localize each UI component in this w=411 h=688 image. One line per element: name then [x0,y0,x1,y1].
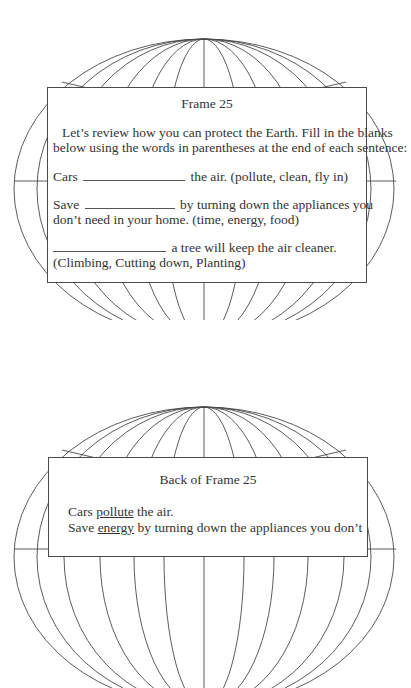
a2-before: Save [68,520,94,535]
q2-before: Save [53,197,79,212]
question-3: a tree will keep the air cleaner. [53,240,337,256]
a2-answer: energy [98,520,135,535]
question-2: Save by turning down the appliances you [53,197,373,213]
q2-blank[interactable] [85,197,175,209]
intro-line-2: below using the words in parentheses at … [53,140,407,156]
a1-after: the air. [137,504,174,519]
back-of-frame-25-card: Back of Frame 25 Cars pollute the air. S… [48,457,368,557]
a1-answer: pollute [96,504,134,519]
q1-blank[interactable] [83,169,185,181]
q3-blank[interactable] [53,240,166,252]
q1-before: Cars [53,169,78,184]
card-title: Frame 25 [48,96,366,112]
a1-before: Cars [68,504,93,519]
intro-line-1: Let’s review how you can protect the Ear… [62,125,393,141]
frame-25-card: Frame 25 Let’s review how you can protec… [47,87,367,283]
q1-after: the air. (pollute, clean, fly in) [191,169,348,184]
answer-1: Cars pollute the air. [68,504,174,520]
answer-2: Save energy by turning down the applianc… [68,520,362,536]
q3-after: a tree will keep the air cleaner. [171,240,336,255]
question-1: Cars the air. (pollute, clean, fly in) [53,169,348,185]
card-title: Back of Frame 25 [49,472,367,488]
a2-after: by turning down the appliances you don’t [138,520,363,535]
question-2-line-2: don’t need in your home. (time, energy, … [53,212,299,228]
question-3-line-2: (Climbing, Cutting down, Planting) [53,255,245,271]
q2-after: by turning down the appliances you [180,197,373,212]
